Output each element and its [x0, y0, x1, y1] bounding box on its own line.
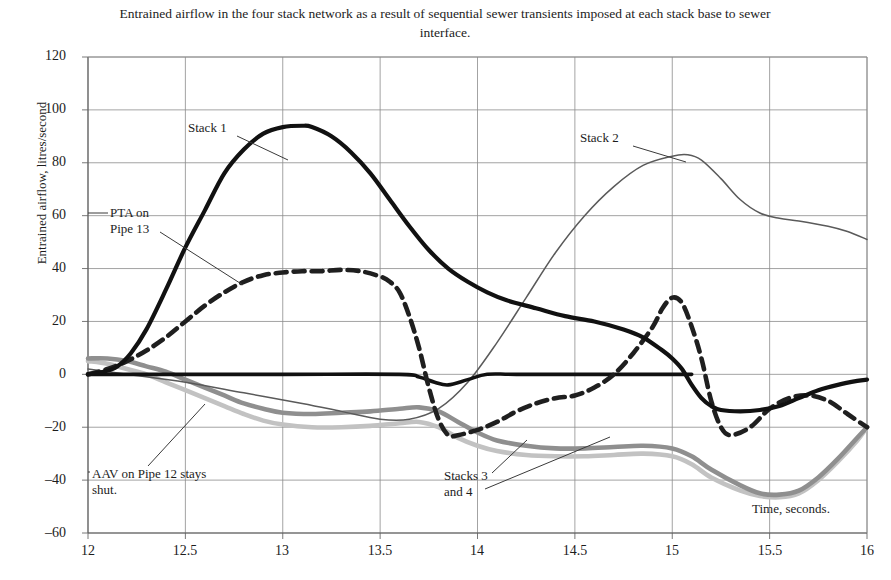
- annotation-stack-1: Stack 1: [188, 120, 227, 136]
- chart-root: Entrained airflow in the four stack netw…: [0, 0, 891, 580]
- annotation-time-seconds: Time, seconds.: [752, 501, 830, 517]
- annotation-stack-2: Stack 2: [580, 130, 619, 146]
- annotation-pta-pipe-13: PTA on Pipe 13: [110, 205, 149, 237]
- annotation-stacks-3-and-4: Stacks 3 and 4: [444, 468, 488, 500]
- annotation-aav-pipe-12: AAV on Pipe 12 stays shut.: [92, 466, 206, 498]
